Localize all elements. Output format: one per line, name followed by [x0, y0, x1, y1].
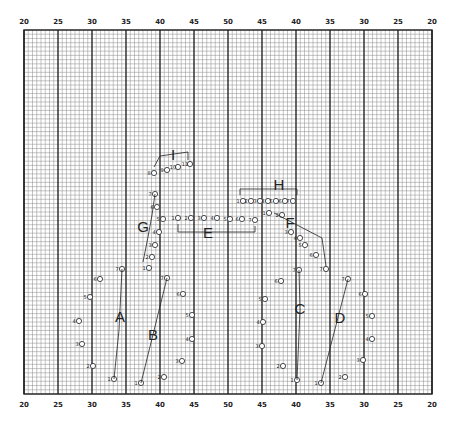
marcher-f-4 [297, 235, 302, 240]
member-number: 6 [93, 276, 96, 282]
marcher-c-5 [262, 296, 267, 301]
yard-labels-bottom: 20253035404550454035302520 [19, 401, 437, 409]
marcher-f-6 [313, 252, 318, 257]
yard-label-bottom: 25 [53, 401, 63, 409]
yard-label-top: 40 [291, 18, 301, 26]
yard-label-bottom: 30 [359, 401, 369, 409]
member-number: 4 [256, 319, 259, 325]
yard-label-top: 25 [393, 18, 403, 26]
member-number: 4 [261, 198, 264, 204]
yard-label-bottom: 35 [325, 401, 335, 409]
yard-label-top: 30 [359, 18, 369, 26]
member-number: 3 [356, 357, 359, 363]
member-number: 4 [152, 229, 155, 235]
member-number: 2 [276, 363, 279, 369]
marcher-c-2 [280, 363, 285, 368]
yard-label-top: 35 [325, 18, 335, 26]
yard-label-bottom: 45 [189, 401, 199, 409]
yard-label-top: 45 [257, 18, 267, 26]
marcher-c-6 [278, 278, 283, 283]
member-number: 3 [255, 343, 258, 349]
member-number: 7 [160, 275, 163, 281]
yard-label-top: 35 [121, 18, 131, 26]
yard-label-top: 30 [87, 18, 97, 26]
member-number: 1 [142, 265, 145, 271]
member-number: 4 [185, 336, 188, 342]
marcher-d-6 [362, 291, 367, 296]
member-number: 7 [248, 217, 251, 223]
marcher-b-4 [189, 336, 194, 341]
member-number: 4 [72, 318, 75, 324]
marcher-a-6 [97, 276, 102, 281]
marcher-d-3 [360, 357, 365, 362]
member-number: 5 [223, 216, 226, 222]
bracket-h [240, 189, 297, 195]
marcher-e-2 [188, 215, 193, 220]
marcher-d-4 [369, 336, 374, 341]
member-number: 1 [107, 376, 110, 382]
member-number: 1 [171, 215, 174, 221]
marcher-a-2 [90, 363, 95, 368]
member-number: 6 [274, 278, 277, 284]
marcher-g-3 [152, 242, 157, 247]
marcher-f-1 [266, 210, 271, 215]
yard-label-bottom: 45 [257, 401, 267, 409]
member-number: 4 [293, 235, 296, 241]
member-number: 1 [236, 198, 239, 204]
member-number: 5 [298, 242, 301, 248]
member-number: 5 [365, 313, 368, 319]
member-number: 5 [185, 312, 188, 318]
yard-label-top: 45 [189, 18, 199, 26]
marcher-d-5 [369, 313, 374, 318]
member-number: 6 [309, 252, 312, 258]
marcher-b-6 [180, 291, 185, 296]
member-number: 9 [160, 167, 163, 173]
yard-label-bottom: 25 [393, 401, 403, 409]
member-number: 7 [148, 191, 151, 197]
marcher-g-1 [146, 265, 151, 270]
member-number: 6 [176, 291, 179, 297]
member-number: 1 [262, 210, 265, 216]
yard-labels-top: 20253035404550454035302520 [19, 18, 437, 26]
marcher-g-2 [149, 254, 154, 259]
marcher-a-3 [79, 341, 84, 346]
marcher-g-4 [156, 229, 161, 234]
yard-label-top: 50 [223, 18, 233, 26]
marcher-f-5 [302, 242, 307, 247]
yard-label-bottom: 40 [291, 401, 301, 409]
member-number: 3 [148, 242, 151, 248]
marcher-g-6 [154, 204, 159, 209]
member-number: 7 [341, 276, 344, 282]
member-number: 2 [157, 374, 160, 380]
marcher-b-2 [161, 374, 166, 379]
marcher-f-7 [323, 266, 328, 271]
yard-label-top: 25 [53, 18, 63, 26]
member-number: 2 [184, 215, 187, 221]
marcher-h-7 [290, 198, 295, 203]
member-number: 3 [75, 341, 78, 347]
marcher-e-4 [214, 215, 219, 220]
drill-chart: 20253035404550454035302520 2025303540455… [0, 0, 456, 432]
marcher-b-3 [179, 358, 184, 363]
member-number: 5 [269, 198, 272, 204]
yard-label-bottom: 20 [427, 401, 437, 409]
member-number: 1 [290, 377, 293, 383]
marcher-e-5 [227, 216, 232, 221]
yard-label-top: 40 [155, 18, 165, 26]
member-number: 6 [235, 216, 238, 222]
member-number: 2 [338, 374, 341, 380]
member-number: 7 [286, 198, 289, 204]
member-number: 6 [278, 198, 281, 204]
member-number: 7 [319, 266, 322, 272]
member-number: 2 [244, 198, 247, 204]
member-number: 2 [145, 254, 148, 260]
member-number: 10 [170, 164, 176, 170]
member-number: 1 [134, 380, 137, 386]
member-number: 3 [253, 198, 256, 204]
marcher-e-6 [239, 216, 244, 221]
yard-label-bottom: 30 [87, 401, 97, 409]
marcher-e-3 [201, 215, 206, 220]
marcher-e-7 [252, 217, 257, 222]
member-number: 3 [197, 215, 200, 221]
member-number: 4 [210, 215, 213, 221]
